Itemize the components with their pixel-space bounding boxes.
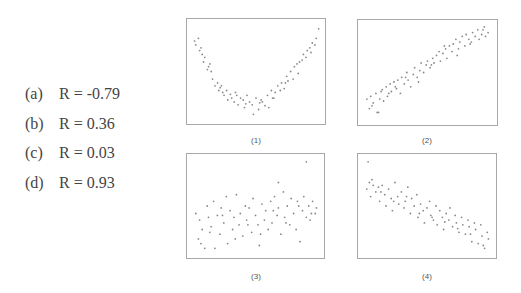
data-point	[420, 203, 422, 205]
data-point	[306, 50, 308, 52]
data-point	[379, 200, 381, 202]
data-point	[452, 226, 454, 228]
data-point	[407, 79, 409, 81]
data-point	[259, 102, 261, 104]
data-point	[283, 191, 285, 193]
data-point	[244, 205, 246, 207]
data-point	[258, 245, 260, 247]
data-point	[394, 86, 396, 88]
data-point	[371, 105, 373, 107]
data-point	[253, 113, 255, 115]
data-point	[367, 161, 369, 163]
data-point	[464, 45, 466, 47]
data-point	[411, 198, 413, 200]
data-point	[433, 62, 435, 64]
data-point	[201, 229, 203, 231]
data-point	[290, 71, 292, 73]
data-point	[429, 67, 431, 69]
data-point	[260, 99, 262, 101]
data-point	[252, 198, 254, 200]
data-point	[400, 93, 402, 95]
data-point	[198, 238, 200, 240]
answer-b: (b) R = 0.36	[25, 114, 120, 144]
data-point	[472, 32, 474, 34]
data-point	[246, 219, 248, 221]
data-point	[418, 81, 420, 83]
data-point	[315, 37, 317, 39]
data-point	[223, 94, 225, 96]
data-point	[233, 216, 235, 218]
data-point	[230, 93, 232, 95]
data-point	[309, 219, 311, 221]
data-point	[198, 37, 200, 39]
data-point	[418, 213, 420, 215]
data-point	[237, 104, 239, 106]
data-point	[370, 95, 372, 97]
data-point	[217, 215, 219, 217]
data-point	[385, 86, 387, 88]
data-point	[305, 161, 307, 163]
data-point	[278, 207, 280, 209]
data-point	[478, 38, 480, 40]
data-point	[430, 215, 432, 217]
data-point	[278, 182, 280, 184]
data-point	[283, 88, 285, 90]
data-point	[366, 98, 368, 100]
data-point	[284, 216, 286, 218]
data-point	[403, 83, 405, 85]
data-point	[396, 88, 398, 90]
data-point	[265, 210, 267, 212]
data-point	[201, 54, 203, 56]
plot-caption-4: (4)	[407, 272, 447, 281]
plot-caption-3: (3)	[236, 272, 276, 281]
data-point	[293, 213, 295, 215]
data-point	[467, 219, 469, 221]
data-point	[264, 105, 266, 107]
data-point	[247, 224, 249, 226]
data-point	[310, 52, 312, 54]
data-point	[210, 71, 212, 73]
data-point	[394, 182, 396, 184]
data-point	[481, 34, 483, 36]
data-point	[443, 229, 445, 231]
data-point	[286, 205, 288, 207]
data-point	[194, 40, 196, 42]
data-point	[318, 28, 320, 30]
data-point	[206, 205, 208, 207]
data-point	[371, 179, 373, 181]
data-point	[474, 222, 476, 224]
data-point	[270, 200, 272, 202]
data-point	[477, 29, 479, 31]
data-point	[222, 92, 224, 94]
data-point	[214, 247, 216, 249]
data-point	[449, 207, 451, 209]
data-point	[209, 231, 211, 233]
data-point	[442, 53, 444, 55]
data-point	[458, 231, 460, 233]
data-point	[482, 29, 484, 31]
data-point	[381, 184, 383, 186]
data-point	[268, 107, 270, 109]
scatter-plot-4	[357, 153, 497, 259]
data-point	[264, 219, 266, 221]
data-point	[311, 42, 313, 44]
data-point	[271, 90, 273, 92]
data-point	[227, 99, 229, 101]
data-point	[251, 231, 253, 233]
data-point	[260, 233, 262, 235]
data-point	[422, 210, 424, 212]
data-point	[220, 207, 222, 209]
data-point	[200, 47, 202, 49]
data-point	[444, 221, 446, 223]
data-point	[262, 101, 264, 103]
data-point	[235, 92, 237, 94]
data-point	[272, 210, 274, 212]
data-point	[297, 73, 299, 75]
data-point	[271, 222, 273, 224]
data-point	[465, 233, 467, 235]
data-point	[312, 200, 314, 202]
data-point	[305, 56, 307, 58]
data-point	[280, 233, 282, 235]
data-point	[240, 97, 242, 99]
data-point	[274, 196, 276, 198]
